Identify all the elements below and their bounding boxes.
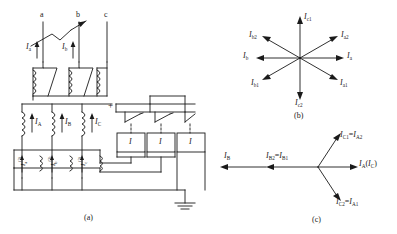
phasor-label-C2-A1: IC2=IA1 [336, 198, 358, 206]
current-label-IB: IB [65, 118, 71, 126]
phasor-label-b: Ib [243, 52, 248, 60]
panel-b-caption: (b) [294, 112, 303, 120]
earth-ground-icon [175, 190, 195, 209]
phasor-label-a1: Ia1 [340, 79, 348, 87]
phasor-label-a: Ia [347, 52, 352, 60]
fault-arrow [31, 21, 86, 46]
current-label-IA: IA [35, 118, 41, 126]
panel-c-phasors [220, 133, 358, 201]
phasor-label-b2: Ib2 [249, 31, 257, 39]
current-label-IC: IC [95, 118, 101, 126]
primary-current-arrows [35, 41, 76, 58]
contact-switches [125, 112, 195, 122]
phasor-label-B2-B1: IB2=IB1 [266, 152, 288, 160]
relay-label-3[interactable]: I [189, 138, 192, 146]
ct-secondary-group [22, 104, 112, 178]
phasor-label-C1-A2: IC1=IA2 [340, 131, 362, 139]
panel-c-caption: (c) [312, 216, 321, 224]
figure-root: a b c Ia Ib IA IB IC Ia(2) Ib(2) Ic(2) +… [0, 0, 397, 234]
terminal-label-b: b [76, 11, 80, 19]
current-label-ib: Ib [62, 43, 67, 51]
phasor-label-c1: Ic1 [304, 13, 312, 21]
relay-label-1[interactable]: I [129, 138, 132, 146]
phasor-label-A-C: IA(IC) [359, 160, 377, 168]
panel-a-caption: (a) [84, 214, 93, 222]
supply-terminal-plus: + [108, 101, 113, 110]
terminal-label-a: a [40, 11, 44, 19]
current-label-ia: Ia [26, 43, 31, 51]
phasor-label-c2: Ic2 [295, 99, 303, 107]
current-label-ia2: Ia(2) [20, 157, 27, 166]
phasor-label-a2: Ia2 [341, 31, 349, 39]
secondary-delta-windings [14, 150, 185, 190]
phasor-label-B: IB [224, 152, 230, 160]
panel-b-phasors [256, 16, 344, 100]
current-label-ic2: Ic(2) [80, 157, 87, 166]
phasor-label-b1: Ib1 [251, 79, 259, 87]
relay-label-2[interactable]: I [159, 138, 162, 146]
primary-coil-turns [33, 70, 100, 94]
terminal-label-c: c [104, 11, 108, 19]
current-label-ib2: Ib(2) [50, 156, 57, 166]
